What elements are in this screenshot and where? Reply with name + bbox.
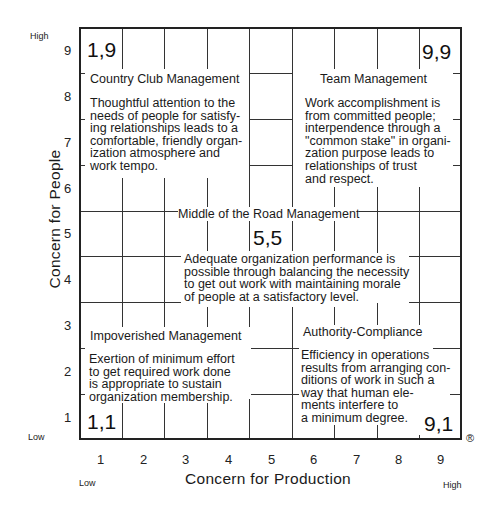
coord-1-1: 1,1: [87, 411, 116, 433]
y-tick-7: 7: [64, 135, 71, 150]
x-tick-7: 7: [353, 452, 360, 467]
y-tick-6: 6: [64, 181, 71, 196]
y-tick-3: 3: [64, 318, 71, 333]
style-desc-team: Work accomplishment is from committed pe…: [305, 97, 451, 185]
x-axis-low-label: Low: [79, 478, 96, 488]
style-desc-country-club: Thoughtful attention to the needs of peo…: [90, 97, 242, 173]
coord-9-9: 9,9: [422, 41, 451, 63]
y-tick-5: 5: [64, 226, 71, 241]
x-tick-4: 4: [225, 452, 232, 467]
y-axis-label: Concern for People: [46, 134, 64, 304]
y-tick-9: 9: [64, 43, 71, 58]
y-axis-low-label: Low: [28, 432, 45, 442]
x-tick-6: 6: [310, 452, 317, 467]
x-tick-9: 9: [437, 452, 444, 467]
x-tick-5: 5: [268, 452, 275, 467]
style-title-team: Team Management: [320, 72, 427, 86]
x-tick-8: 8: [395, 452, 402, 467]
coord-1-9: 1,9: [87, 39, 116, 61]
y-tick-1: 1: [64, 410, 71, 425]
y-axis-high-label: High: [30, 31, 49, 41]
x-axis-high-label: High: [443, 480, 462, 490]
style-desc-middle-of-the-road: Adequate organization performance is pos…: [184, 253, 409, 303]
x-tick-1: 1: [97, 452, 104, 467]
style-title-country-club: Country Club Management: [90, 72, 239, 86]
style-desc-impoverished: Exertion of minimum effort to get requir…: [89, 353, 235, 403]
coord-9-1: 9,1: [424, 413, 453, 435]
style-title-middle-of-the-road: Middle of the Road Management: [178, 207, 359, 221]
y-tick-4: 4: [64, 272, 71, 287]
y-tick-2: 2: [64, 364, 71, 379]
x-tick-2: 2: [140, 452, 147, 467]
style-title-authority-compliance: Authority-Compliance: [303, 325, 423, 339]
x-tick-3: 3: [182, 452, 189, 467]
registered-trademark-mark: ®: [466, 432, 474, 444]
x-axis-label: Concern for Production: [185, 470, 351, 488]
style-title-impoverished: Impoverished Management: [90, 329, 241, 343]
managerial-grid: 1,9 Country Club Management Thoughtful a…: [79, 27, 462, 440]
coord-5-5: 5,5: [253, 227, 282, 249]
y-tick-8: 8: [64, 89, 71, 104]
